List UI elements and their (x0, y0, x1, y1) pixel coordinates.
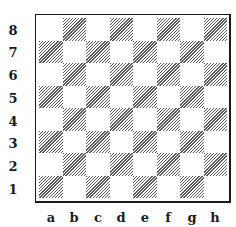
board-grid (39, 18, 227, 198)
square-e6 (133, 63, 157, 86)
square-b8 (63, 18, 87, 41)
square-c8 (86, 18, 110, 41)
square-e5 (133, 86, 157, 109)
file-label-c: c (90, 211, 106, 225)
square-c1 (86, 176, 110, 199)
square-e1 (133, 176, 157, 199)
rank-label-6: 6 (6, 69, 20, 83)
square-c4 (86, 108, 110, 131)
square-b4 (63, 108, 87, 131)
square-e2 (133, 153, 157, 176)
square-f7 (157, 41, 181, 64)
square-d4 (110, 108, 134, 131)
square-c2 (86, 153, 110, 176)
square-a7 (39, 41, 63, 64)
square-h1 (204, 176, 228, 199)
rank-label-3: 3 (6, 137, 20, 151)
square-g3 (180, 131, 204, 154)
square-d7 (110, 41, 134, 64)
file-label-d: d (113, 211, 129, 225)
rank-label-7: 7 (6, 46, 20, 60)
square-g5 (180, 86, 204, 109)
rank-label-2: 2 (6, 160, 20, 174)
square-b6 (63, 63, 87, 86)
square-g7 (180, 41, 204, 64)
square-b1 (63, 176, 87, 199)
square-d1 (110, 176, 134, 199)
file-label-h: h (207, 211, 223, 225)
square-f4 (157, 108, 181, 131)
square-f6 (157, 63, 181, 86)
square-d5 (110, 86, 134, 109)
rank-label-4: 4 (6, 115, 20, 129)
square-g4 (180, 108, 204, 131)
square-d2 (110, 153, 134, 176)
square-e7 (133, 41, 157, 64)
square-f3 (157, 131, 181, 154)
square-h4 (204, 108, 228, 131)
file-label-f: f (160, 211, 176, 225)
square-f2 (157, 153, 181, 176)
square-d3 (110, 131, 134, 154)
square-g6 (180, 63, 204, 86)
square-b7 (63, 41, 87, 64)
square-a4 (39, 108, 63, 131)
file-label-a: a (43, 211, 59, 225)
square-f8 (157, 18, 181, 41)
rank-label-8: 8 (6, 24, 20, 38)
square-c3 (86, 131, 110, 154)
square-b5 (63, 86, 87, 109)
square-h8 (204, 18, 228, 41)
square-g1 (180, 176, 204, 199)
square-h7 (204, 41, 228, 64)
square-h6 (204, 63, 228, 86)
square-a8 (39, 18, 63, 41)
rank-label-1: 1 (6, 183, 20, 197)
square-f1 (157, 176, 181, 199)
file-label-b: b (66, 211, 82, 225)
square-c5 (86, 86, 110, 109)
square-e3 (133, 131, 157, 154)
square-a2 (39, 153, 63, 176)
square-e4 (133, 108, 157, 131)
square-d6 (110, 63, 134, 86)
square-e8 (133, 18, 157, 41)
square-h3 (204, 131, 228, 154)
square-a3 (39, 131, 63, 154)
square-c7 (86, 41, 110, 64)
square-d8 (110, 18, 134, 41)
square-b3 (63, 131, 87, 154)
square-c6 (86, 63, 110, 86)
file-label-g: g (184, 211, 200, 225)
square-g8 (180, 18, 204, 41)
chess-board (35, 14, 231, 203)
square-a6 (39, 63, 63, 86)
square-g2 (180, 153, 204, 176)
square-a1 (39, 176, 63, 199)
file-label-e: e (137, 211, 153, 225)
square-b2 (63, 153, 87, 176)
rank-label-5: 5 (6, 92, 20, 106)
square-h5 (204, 86, 228, 109)
square-a5 (39, 86, 63, 109)
square-h2 (204, 153, 228, 176)
square-f5 (157, 86, 181, 109)
